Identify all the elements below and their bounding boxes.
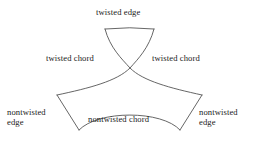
label-nontwisted-chord: nontwisted chord bbox=[88, 114, 149, 124]
label-twisted-chord-left: twisted chord bbox=[46, 53, 94, 63]
label-nontwisted-edge-left: nontwistededge bbox=[7, 107, 63, 127]
label-twisted-edge: twisted edge bbox=[96, 7, 140, 17]
label-nontwisted-edge-left-line2: edge bbox=[7, 117, 24, 127]
label-nontwisted-edge-right: nontwistededge bbox=[199, 107, 255, 127]
figure-container: twisted edge twisted chord twisted chord… bbox=[0, 0, 257, 144]
label-nontwisted-edge-left-line1: nontwisted bbox=[7, 107, 46, 117]
label-nontwisted-edge-right-line1: nontwisted bbox=[199, 107, 238, 117]
label-nontwisted-edge-right-line2: edge bbox=[199, 117, 216, 127]
twisted-edge-path bbox=[105, 28, 154, 29]
label-twisted-chord-right: twisted chord bbox=[152, 53, 200, 63]
